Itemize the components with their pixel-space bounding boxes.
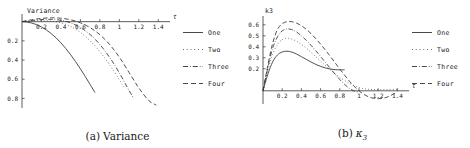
y-tick-label: 0.4	[248, 43, 259, 50]
x-tick-label: 1	[357, 92, 361, 99]
y-tick-label: 0.6	[7, 75, 18, 82]
legend-item-three[interactable]: Three	[411, 58, 467, 75]
legend-label-four: Four	[204, 80, 225, 88]
caption-panel-a: (a)Variance	[0, 130, 235, 142]
caption-panel-b: (b)κ3	[235, 127, 470, 142]
panel-variance: Variance 0.20.40.60.811.21.40.80.60.40.2…	[0, 0, 235, 148]
x-axis-label: t	[173, 13, 177, 20]
legend-swatch-solid-icon	[182, 28, 204, 37]
y-tick-label: 0.5	[248, 32, 259, 39]
y-tick-label: 0.4	[7, 56, 18, 63]
y-tick-label: 0.6	[248, 21, 259, 28]
x-tick-label: 1.4	[153, 23, 164, 30]
panel-kappa3: k3 0.20.40.60.811.21.40.20.30.40.50.6t O…	[235, 0, 470, 148]
variance-plot-svg: 0.20.40.60.811.21.40.80.60.40.2t	[0, 0, 190, 112]
legend-label-four: Four	[433, 80, 454, 88]
legend-variance: One Two Three Four	[182, 24, 238, 92]
legend-item-two[interactable]: Two	[411, 41, 467, 58]
legend-swatch-dashed-icon	[182, 79, 204, 88]
legend-swatch-dashed-icon	[411, 79, 433, 88]
caption-a-number: (a)	[86, 130, 103, 142]
series-line-one	[22, 22, 95, 93]
legend-item-three[interactable]: Three	[182, 58, 238, 75]
legend-label-three: Three	[204, 63, 229, 71]
legend-label-one: One	[204, 29, 221, 37]
series-line-three	[22, 19, 134, 98]
x-tick-label: 1.2	[373, 92, 384, 99]
legend-swatch-dotted-icon	[182, 45, 204, 54]
caption-a-text: Variance	[103, 130, 149, 142]
x-tick-label: 0.4	[296, 92, 307, 99]
x-tick-label: 0.2	[36, 23, 47, 30]
series-line-three	[263, 29, 359, 92]
caption-b-text: κ3	[356, 127, 367, 139]
x-tick-label: 1	[118, 23, 122, 30]
legend-swatch-dashdot-icon	[182, 62, 204, 71]
plot-area-kappa3: 0.20.40.60.811.21.40.20.30.40.50.6t	[235, 0, 425, 112]
two-panel-figure: Variance 0.20.40.60.811.21.40.80.60.40.2…	[0, 0, 470, 148]
legend-item-two[interactable]: Two	[182, 41, 238, 58]
legend-label-one: One	[433, 29, 450, 37]
x-tick-label: 0.6	[315, 92, 326, 99]
x-tick-label: 0.8	[334, 92, 345, 99]
series-line-two	[263, 38, 397, 91]
series-line-two	[22, 21, 124, 88]
legend-item-one[interactable]: One	[182, 24, 238, 41]
series-line-four	[22, 18, 156, 105]
kappa3-plot-svg: 0.20.40.60.811.21.40.20.30.40.50.6t	[235, 0, 425, 112]
x-tick-label: 0.8	[94, 23, 105, 30]
x-tick-label: 1.4	[392, 92, 403, 99]
y-tick-label: 0.2	[248, 65, 259, 72]
legend-item-four[interactable]: Four	[411, 75, 467, 92]
series-line-four	[263, 22, 397, 99]
legend-swatch-dotted-icon	[411, 45, 433, 54]
legend-label-two: Two	[204, 46, 221, 54]
legend-swatch-solid-icon	[411, 28, 433, 37]
y-tick-label: 0.8	[7, 95, 18, 102]
caption-b-number: (b)	[338, 127, 356, 139]
legend-kappa3: One Two Three Four	[411, 24, 467, 92]
y-tick-label: 0.3	[248, 54, 259, 61]
x-tick-label: 0.6	[75, 23, 86, 30]
plot-area-variance: 0.20.40.60.811.21.40.80.60.40.2t	[0, 0, 190, 112]
legend-item-four[interactable]: Four	[182, 75, 238, 92]
legend-swatch-dashdot-icon	[411, 62, 433, 71]
x-tick-label: 0.2	[277, 92, 288, 99]
y-tick-label: 0.2	[7, 37, 18, 44]
legend-item-one[interactable]: One	[411, 24, 467, 41]
legend-label-two: Two	[433, 46, 450, 54]
x-tick-label: 1.2	[133, 23, 144, 30]
legend-label-three: Three	[433, 63, 458, 71]
